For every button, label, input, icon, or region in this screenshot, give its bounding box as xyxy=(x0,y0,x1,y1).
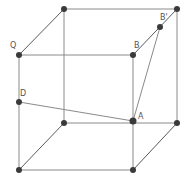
vertex-Q xyxy=(16,52,22,58)
label-D: D xyxy=(20,90,26,98)
vertex-B xyxy=(130,52,136,58)
edge-bottom-right xyxy=(133,123,177,170)
vertex-bottom-back-left xyxy=(61,120,67,126)
vertex-bottom-front-right xyxy=(130,167,136,173)
edge-top-left xyxy=(19,9,64,55)
edge-bottom-left xyxy=(19,123,64,170)
cube-diagram xyxy=(0,0,188,181)
point-A xyxy=(130,118,137,125)
segment-D-A xyxy=(19,102,133,121)
point-D xyxy=(16,99,22,105)
edge-top-right xyxy=(133,9,177,55)
label-Q: Q xyxy=(10,42,16,50)
label-B-prime: B' xyxy=(160,14,168,22)
label-B: B xyxy=(134,42,140,50)
vertex-top-back-left xyxy=(61,6,67,12)
vertex-bottom-back-right xyxy=(174,120,180,126)
point-B-prime xyxy=(157,24,163,30)
vertex-top-back-right xyxy=(174,6,180,12)
vertex-bottom-front-left xyxy=(16,167,22,173)
label-A: A xyxy=(138,113,143,121)
